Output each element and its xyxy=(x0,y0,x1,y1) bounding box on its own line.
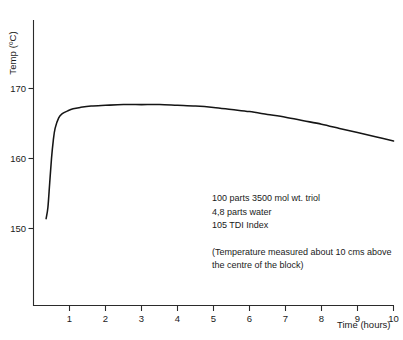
x-tick-label-5: 5 xyxy=(211,313,216,324)
annotation-line-tdi: 105 TDI Index xyxy=(212,219,392,233)
y-tick-label-170: 170 xyxy=(10,83,26,94)
x-tick-label-4: 4 xyxy=(175,313,180,324)
x-tick-label-7: 7 xyxy=(283,313,288,324)
annotation-note-line-1: (Temperature measured about 10 cms above xyxy=(212,246,392,260)
plot-area: 170 160 150 1 2 3 4 5 6 7 8 9 xyxy=(0,0,403,340)
chart-container: Temp (ºC) 170 160 150 xyxy=(0,0,403,340)
x-axis-title: Time (hours) xyxy=(337,319,391,330)
x-tick-label-1: 1 xyxy=(67,313,72,324)
annotation-line-water: 4,8 parts water xyxy=(212,206,392,220)
y-axis-ticks xyxy=(29,89,34,229)
x-tick-label-6: 6 xyxy=(247,313,252,324)
annotation-note-line-2: the centre of the block) xyxy=(212,259,392,273)
x-tick-label-8: 8 xyxy=(319,313,324,324)
annotation-block: 100 parts 3500 mol wt. triol 4,8 parts w… xyxy=(212,192,392,273)
y-axis-tick-labels: 170 160 150 xyxy=(10,83,26,234)
annotation-line-triol: 100 parts 3500 mol wt. triol xyxy=(212,192,392,206)
y-tick-label-150: 150 xyxy=(10,223,26,234)
x-tick-label-3: 3 xyxy=(139,313,144,324)
x-axis-ticks xyxy=(70,306,394,312)
y-tick-label-160: 160 xyxy=(10,153,26,164)
x-tick-label-2: 2 xyxy=(103,313,108,324)
